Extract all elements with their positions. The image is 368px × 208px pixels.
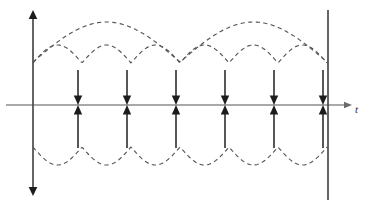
vertical-axis (29, 10, 38, 196)
impulse-5 (270, 70, 278, 148)
t-axis-label: t (355, 103, 359, 115)
impulse-arrowhead-down-icon (270, 96, 278, 106)
impulse-2 (123, 70, 131, 148)
vertical-axis-arrowhead-down-icon (29, 187, 38, 196)
fast-rectified-envelope-lower-curve (33, 147, 328, 165)
vertical-axis-arrowhead-up-icon (29, 10, 38, 19)
t-axis-arrowhead-icon (344, 102, 352, 108)
impulse-1 (74, 70, 82, 148)
impulse-arrowhead-down-icon (319, 96, 327, 106)
impulse-3 (172, 70, 180, 148)
impulse-arrowhead-up-icon (319, 105, 327, 115)
fast-rectified-envelope-upper-curve (33, 45, 328, 63)
impulse-arrowhead-down-icon (172, 96, 180, 106)
impulse-6 (319, 70, 327, 148)
impulse-arrowhead-up-icon (221, 105, 229, 115)
impulse-arrowhead-up-icon (270, 105, 278, 115)
impulse-train-diagram: t (0, 0, 368, 208)
impulse-4 (221, 70, 229, 148)
t-axis (6, 102, 352, 108)
impulse-arrowhead-up-icon (172, 105, 180, 115)
impulse-arrowhead-up-icon (123, 105, 131, 115)
impulse-arrowhead-down-icon (74, 96, 82, 106)
impulse-train-group (74, 70, 327, 148)
impulse-arrowhead-down-icon (123, 96, 131, 106)
figure-canvas: t (0, 0, 368, 208)
impulse-arrowhead-down-icon (221, 96, 229, 106)
impulse-arrowhead-up-icon (74, 105, 82, 115)
